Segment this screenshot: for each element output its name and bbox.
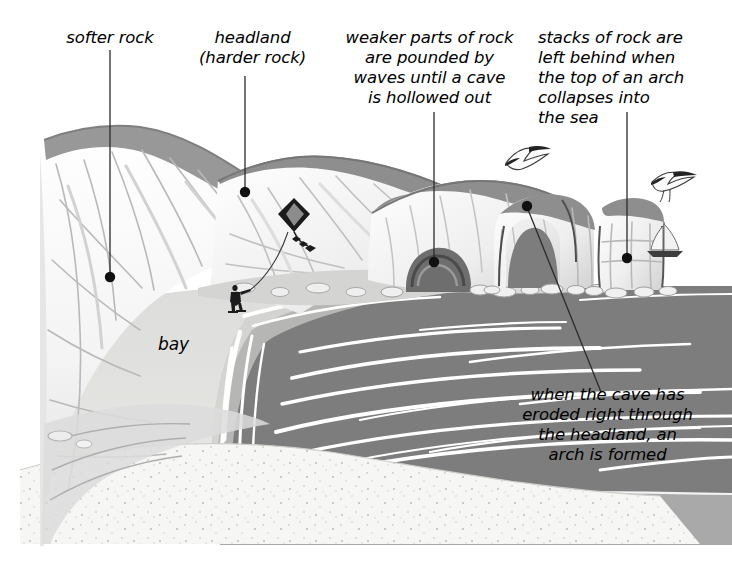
label-arch-formed: when the cave has eroded right through t… — [505, 385, 710, 465]
dot-arch — [522, 201, 532, 211]
dot-softer-rock — [105, 272, 115, 282]
dot-headland — [240, 187, 250, 197]
label-bay: bay — [158, 334, 228, 354]
label-headland: headland (harder rock) — [175, 28, 330, 68]
dot-weaker-parts — [429, 257, 439, 267]
label-weaker-parts-of-rock: weaker parts of rock are pounded by wave… — [332, 28, 527, 108]
label-softer-rock: softer rock — [35, 28, 185, 48]
dot-stacks — [622, 253, 632, 263]
label-stacks-of-rock: stacks of rock are left behind when the … — [538, 28, 718, 128]
coastal-erosion-figure: softer rock headland (harder rock) weake… — [0, 0, 732, 573]
